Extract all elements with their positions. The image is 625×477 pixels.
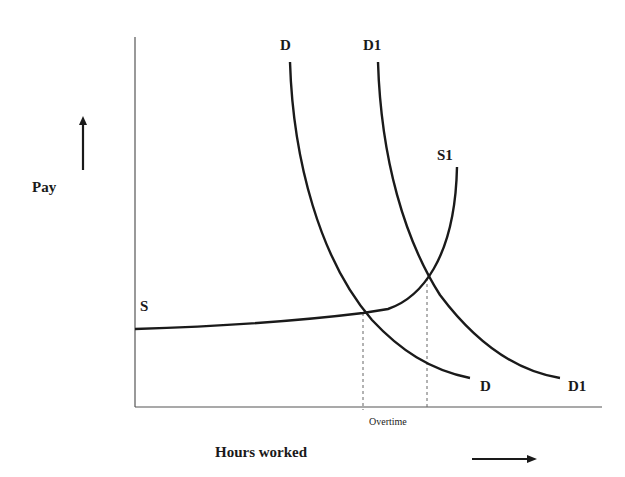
pay-up-arrow-icon xyxy=(79,116,87,170)
label-d1-top: D1 xyxy=(363,37,381,53)
x-axis-label: Hours worked xyxy=(215,444,308,460)
demand-curve-d1 xyxy=(378,62,560,378)
label-s1: S1 xyxy=(437,147,453,163)
hours-right-arrow-icon xyxy=(472,455,537,463)
overtime-label: Overtime xyxy=(369,416,407,427)
label-d-bottom: D xyxy=(480,378,491,394)
label-d-top: D xyxy=(280,37,291,53)
label-s: S xyxy=(140,298,148,314)
supply-curve xyxy=(135,167,457,329)
label-d1-bottom: D1 xyxy=(568,378,586,394)
labour-market-diagram: Pay D D1 S1 S D D1 Overtime Hours worked xyxy=(0,0,625,477)
y-axis-label: Pay xyxy=(32,179,57,195)
